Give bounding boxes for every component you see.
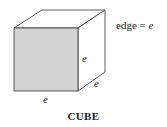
edge-legend-prefix: edge = (116, 19, 148, 31)
edge-label-depth: e (94, 77, 99, 89)
cube-front-face (14, 28, 78, 91)
diagram-caption: CUBE (0, 110, 167, 122)
edge-legend-variable: e (148, 19, 153, 31)
edge-label-front-right: e (82, 52, 87, 64)
edge-label-bottom: e (43, 93, 48, 105)
edge-legend: edge = e (116, 19, 153, 31)
